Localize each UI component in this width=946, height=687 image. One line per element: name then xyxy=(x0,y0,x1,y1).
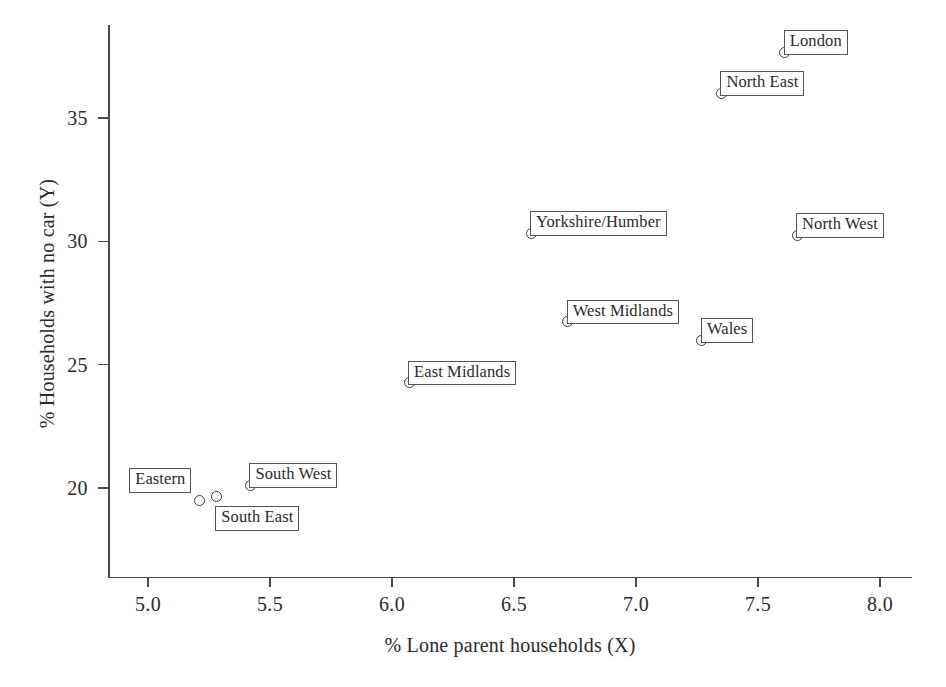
y-axis-line xyxy=(108,25,110,578)
x-axis-tick-label: 7.0 xyxy=(601,594,671,614)
x-axis-tick-label: 6.0 xyxy=(357,594,427,614)
data-point-label: Eastern xyxy=(129,468,191,492)
y-axis-tick xyxy=(98,364,108,366)
data-point-label: Wales xyxy=(701,318,753,342)
y-axis-tick xyxy=(98,241,108,243)
data-point-marker[interactable] xyxy=(194,495,205,506)
x-axis-tick xyxy=(879,577,881,587)
x-axis-tick-label: 6.5 xyxy=(479,594,549,614)
data-point-label: North East xyxy=(720,71,804,95)
x-axis-tick-label: 5.0 xyxy=(113,594,183,614)
data-point-label: South East xyxy=(215,506,299,530)
data-point-label: London xyxy=(784,30,848,54)
data-point-label: East Midlands xyxy=(408,361,516,385)
x-axis-tick xyxy=(147,577,149,587)
y-axis-tick xyxy=(98,487,108,489)
x-axis-tick xyxy=(757,577,759,587)
x-axis-tick xyxy=(513,577,515,587)
data-point-label: South West xyxy=(249,463,337,487)
x-axis-tick-label: 8.0 xyxy=(845,594,915,614)
x-axis-title: % Lone parent households (X) xyxy=(108,634,912,657)
data-point-marker[interactable] xyxy=(211,491,222,502)
data-point-label: West Midlands xyxy=(567,300,679,324)
y-axis-tick xyxy=(98,117,108,119)
data-point-label: Yorkshire/Humber xyxy=(530,211,667,235)
x-axis-tick xyxy=(269,577,271,587)
y-axis-title: % Households with no car (Y) xyxy=(36,24,59,584)
x-axis-tick xyxy=(635,577,637,587)
x-axis-tick-label: 7.5 xyxy=(723,594,793,614)
scatter-plot-figure: 5.05.56.06.57.07.58.020253035 LondonNort… xyxy=(0,0,946,687)
x-axis-tick xyxy=(391,577,393,587)
data-point-label: North West xyxy=(796,213,884,237)
x-axis-line xyxy=(108,577,912,579)
x-axis-tick-label: 5.5 xyxy=(235,594,305,614)
